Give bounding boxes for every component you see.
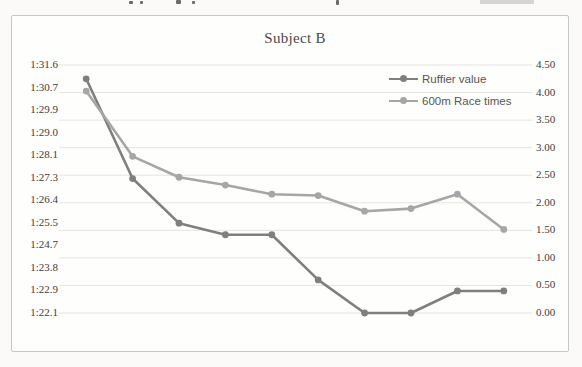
- right-axis-tick: 0.00: [536, 305, 568, 320]
- left-axis-tick: 1:24.7: [12, 237, 58, 252]
- left-axis-tick: 1:22.9: [12, 282, 58, 297]
- right-axis-tick: 3.50: [536, 112, 568, 127]
- legend-item-ruffier-value: Ruffier value: [389, 71, 539, 87]
- left-axis-tick: 1:29.9: [12, 102, 58, 117]
- left-axis-tick: 1:25.5: [12, 215, 58, 230]
- right-axis-tick: 3.00: [536, 140, 568, 155]
- left-axis-tick: 1:23.8: [12, 260, 58, 275]
- plot-area: [12, 16, 568, 351]
- right-axis-tick: 1.50: [536, 222, 568, 237]
- legend-label-ruffier-value: Ruffier value: [422, 73, 486, 85]
- text-fragment: [192, 1, 195, 4]
- left-axis-tick: 1:30.7: [12, 80, 58, 95]
- legend-label-600m-race-times: 600m Race times: [422, 95, 511, 107]
- text-fragment: [140, 1, 143, 4]
- text-fragment: [129, 1, 133, 4]
- left-axis-tick: 1:27.3: [12, 170, 58, 185]
- right-axis-tick: 1.00: [536, 250, 568, 265]
- left-axis-tick: 1:29.0: [12, 125, 58, 140]
- left-axis-tick: 1:22.1: [12, 305, 58, 320]
- right-axis-tick: 2.50: [536, 167, 568, 182]
- legend: Ruffier value 600m Race times: [389, 71, 539, 115]
- right-axis-tick: 0.50: [536, 277, 568, 292]
- left-axis-tick: 1:31.6: [12, 57, 58, 72]
- left-axis-tick: 1:28.1: [12, 147, 58, 162]
- right-axis-tick: 2.00: [536, 195, 568, 210]
- right-axis-tick: 4.50: [536, 57, 568, 72]
- left-axis-tick: 1:26.4: [12, 192, 58, 207]
- text-fragment: [176, 0, 181, 4]
- legend-item-600m-race-times: 600m Race times: [389, 93, 539, 109]
- race-times-series-marker-icon: [389, 100, 418, 103]
- right-axis-tick: 4.00: [536, 85, 568, 100]
- chart-container: Subject B 1:31.61:30.71:29.91:29.01:28.1…: [11, 15, 569, 352]
- highlight-fragment: [480, 0, 534, 4]
- ruffier-series-marker-icon: [389, 78, 418, 81]
- text-fragment: [336, 0, 339, 5]
